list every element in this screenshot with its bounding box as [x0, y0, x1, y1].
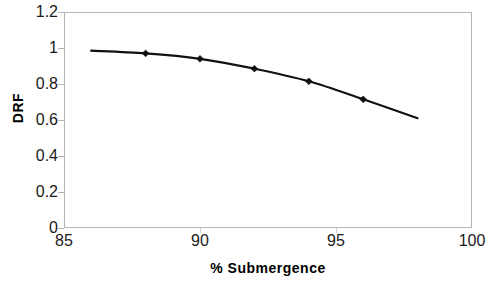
y-axis-tick-mark — [58, 192, 64, 193]
y-axis-tick-label: 0.2 — [6, 184, 58, 200]
y-axis-tick-label: 0.4 — [6, 148, 58, 164]
y-axis-tick-label: 1.2 — [6, 4, 58, 20]
plot-canvas — [64, 12, 472, 228]
y-axis-tick-mark — [58, 120, 64, 121]
x-axis-tick-mark — [200, 228, 201, 233]
x-axis-tick-label: 85 — [34, 233, 94, 249]
y-axis-tick-mark — [58, 12, 64, 13]
y-axis-title: DRF — [10, 78, 26, 138]
x-axis-tick-label: 90 — [170, 233, 230, 249]
series-line-drf — [91, 51, 417, 119]
x-axis-tick-label: 95 — [306, 233, 366, 249]
x-axis-tick-label: 100 — [442, 233, 497, 249]
x-axis-title: % Submergence — [64, 260, 472, 276]
y-axis-tick-mark — [58, 84, 64, 85]
x-axis-tick-mark — [336, 228, 337, 233]
chart-container: 00.20.40.60.811.2 DRF % Submergence 8590… — [0, 0, 497, 291]
data-point-marker — [360, 96, 367, 103]
data-point-marker — [142, 50, 149, 57]
y-axis-tick-mark — [58, 156, 64, 157]
data-point-marker — [305, 78, 312, 85]
y-axis-tick-mark — [58, 48, 64, 49]
data-point-marker — [251, 65, 258, 72]
y-axis-tick-label: 1 — [6, 40, 58, 56]
series-markers-drf — [142, 50, 366, 103]
data-point-marker — [197, 55, 204, 62]
y-axis-tick-mark — [58, 228, 64, 229]
